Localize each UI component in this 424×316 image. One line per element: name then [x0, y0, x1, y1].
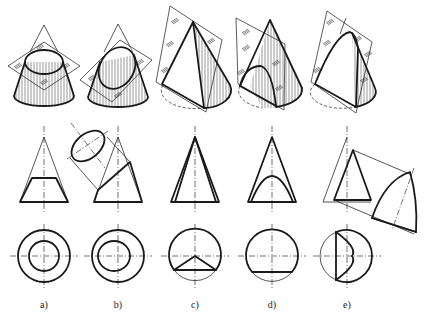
pictorial-a	[8, 25, 80, 106]
pictorial-e	[310, 11, 375, 113]
cone-sections-figure	[0, 0, 424, 316]
panel-label-c: c)	[191, 299, 199, 310]
panel-label-a: a)	[40, 299, 48, 310]
pictorial-c	[156, 6, 231, 112]
panel-label-b: b)	[114, 299, 122, 310]
front-view-b	[66, 123, 142, 212]
pictorial-b	[80, 24, 152, 107]
front-view-a	[20, 126, 68, 212]
top-view-a	[10, 224, 78, 290]
top-view-b	[84, 224, 152, 290]
panel-label-d: d)	[268, 299, 276, 310]
front-view-d	[248, 126, 296, 212]
panel-label-e: e)	[343, 299, 351, 310]
top-view-e	[313, 224, 381, 290]
top-view-c	[161, 224, 229, 290]
front-view-e	[323, 126, 416, 234]
pictorial-d	[236, 18, 302, 110]
front-view-c	[171, 126, 219, 212]
top-view-d	[238, 224, 306, 290]
